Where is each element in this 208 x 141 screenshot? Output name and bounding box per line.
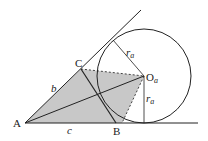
label-a: A xyxy=(13,117,21,129)
label-b: B xyxy=(113,125,120,137)
label-c: C xyxy=(75,57,82,69)
label-radius-upper: ra xyxy=(126,46,134,60)
label-oa: Oa xyxy=(146,71,158,85)
label-radius-lower: ra xyxy=(146,92,154,106)
shaded-region xyxy=(25,69,144,123)
diagram-svg: A B C Oa b c ra ra xyxy=(0,0,208,141)
excircle-diagram: A B C Oa b c ra ra xyxy=(0,0,208,141)
label-side-c: c xyxy=(67,124,72,136)
label-side-b: b xyxy=(51,82,57,94)
